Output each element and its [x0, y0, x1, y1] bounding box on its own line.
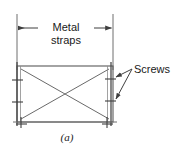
- metal-straps-label-line1: Metal: [53, 21, 80, 33]
- metal-straps-label-line2: straps: [40, 34, 92, 47]
- left-strap: [17, 62, 21, 126]
- figure-caption: (a): [52, 131, 82, 143]
- screws-leader-lines: [116, 69, 132, 99]
- right-strap: [108, 62, 112, 126]
- screws-label: Screws: [133, 63, 171, 75]
- metal-straps-label: Metal straps: [38, 21, 94, 46]
- diagonal-cross-bracing: [21, 69, 109, 119]
- figure-container: Metal straps Screws (a): [0, 0, 179, 152]
